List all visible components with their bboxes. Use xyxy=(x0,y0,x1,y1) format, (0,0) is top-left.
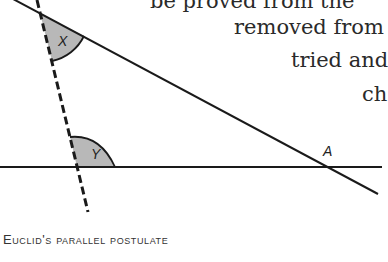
figure-caption: Euclid's parallel postulate xyxy=(3,232,168,247)
angle-y-label: Y xyxy=(91,146,100,162)
angle-x-label: X xyxy=(58,33,67,49)
point-a-label: A xyxy=(323,143,332,159)
